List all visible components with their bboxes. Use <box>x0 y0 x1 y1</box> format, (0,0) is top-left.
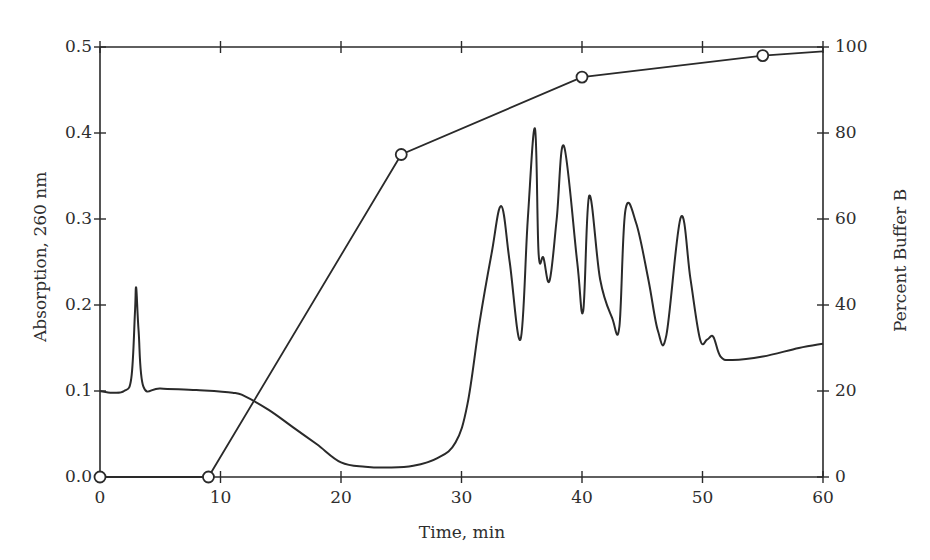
y2-tick-label: 0 <box>835 466 885 486</box>
absorption-trace <box>100 128 823 467</box>
x-tick-label: 50 <box>683 487 723 507</box>
y2-tick-label: 40 <box>835 294 885 314</box>
buffer-b-markers <box>95 50 769 482</box>
x-tick-label: 30 <box>442 487 482 507</box>
y-tick-label: 0.5 <box>32 36 92 56</box>
x-axis-title: Time, min <box>412 522 512 542</box>
y2-axis-title: Percent Buffer B <box>890 192 910 332</box>
y2-tick-label: 80 <box>835 122 885 142</box>
open-circle-marker <box>95 472 106 483</box>
x-tick-label: 60 <box>803 487 843 507</box>
y-axis-title: Absorption, 260 nm <box>30 182 50 342</box>
open-circle-marker <box>203 472 214 483</box>
y2-tick-label: 100 <box>835 36 885 56</box>
x-tick-label: 10 <box>201 487 241 507</box>
x-tick-label: 0 <box>80 487 120 507</box>
open-circle-marker <box>577 72 588 83</box>
y-tick-label: 0.1 <box>32 380 92 400</box>
x-tick-label: 40 <box>562 487 602 507</box>
open-circle-marker <box>396 149 407 160</box>
y-tick-label: 0.0 <box>32 466 92 486</box>
chart-canvas <box>0 0 930 560</box>
axis-ticks <box>94 41 829 483</box>
open-circle-marker <box>757 50 768 61</box>
plot-frame <box>100 47 823 477</box>
y-tick-label: 0.4 <box>32 122 92 142</box>
y2-tick-label: 60 <box>835 208 885 228</box>
x-tick-label: 20 <box>321 487 361 507</box>
buffer-b-gradient-line <box>100 51 823 477</box>
y2-tick-label: 20 <box>835 380 885 400</box>
